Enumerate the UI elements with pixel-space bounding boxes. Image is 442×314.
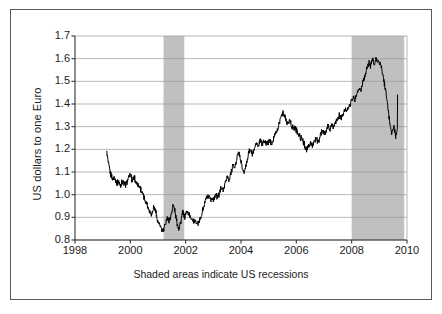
x-axis-tick-label: 2008 (330, 244, 374, 256)
x-axis-tick-label: 2010 (385, 244, 429, 256)
x-axis-tick-label: 2006 (274, 244, 318, 256)
y-axis-title: US dollars to one Euro (31, 44, 43, 244)
x-axis-tick-label: 2004 (219, 244, 263, 256)
x-axis-tick-label: 2002 (164, 244, 208, 256)
figure-container: 0.80.91.01.11.21.31.41.51.61.7 199820002… (0, 0, 442, 314)
y-axis-tick-label: 1.3 (44, 121, 70, 132)
y-axis-tick-labels: 0.80.91.01.11.21.31.41.51.61.7 (42, 0, 70, 314)
x-axis-tick-label: 2000 (108, 244, 152, 256)
y-axis-tick-label: 1.2 (44, 143, 70, 154)
y-axis-tick-label: 1.6 (44, 53, 70, 64)
chart-plot-region: 0.80.91.01.11.21.31.41.51.61.7 199820002… (0, 0, 442, 314)
y-axis-tick-label: 1.0 (44, 189, 70, 200)
recession-shaded-band (352, 36, 405, 240)
y-axis-tick-label: 0.9 (44, 211, 70, 222)
y-axis-tick-label: 1.1 (44, 166, 70, 177)
x-axis-tick-label: 1998 (53, 244, 97, 256)
y-axis-tick-label: 1.4 (44, 98, 70, 109)
y-axis-tick-label: 1.5 (44, 75, 70, 86)
y-axis-tick-label: 1.7 (44, 30, 70, 41)
chart-caption: Shaded areas indicate US recessions (0, 268, 442, 280)
